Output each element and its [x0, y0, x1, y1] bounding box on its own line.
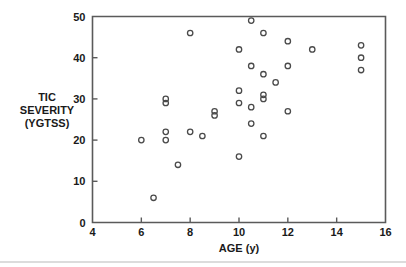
data-point: [200, 133, 205, 138]
data-point: [236, 100, 241, 105]
y-tick-label: 20: [73, 134, 85, 146]
x-axis-tick-labels: 46810121416: [89, 226, 391, 238]
x-tick-label: 6: [138, 226, 144, 238]
x-tick-label: 8: [187, 226, 193, 238]
data-point: [358, 43, 363, 48]
data-point: [358, 67, 363, 72]
y-tick-label: 50: [73, 11, 85, 23]
x-axis-title-text: AGE (y): [219, 242, 260, 254]
data-point: [236, 47, 241, 52]
data-point: [273, 80, 278, 85]
data-point: [236, 88, 241, 93]
data-point: [310, 47, 315, 52]
data-point: [261, 133, 266, 138]
y-axis-title-line: SEVERITY: [20, 104, 75, 116]
y-axis-title: TICSEVERITY(YGTSS): [20, 91, 75, 129]
y-axis-tick-labels: 01020304050: [73, 11, 85, 229]
x-axis-title: AGE (y): [219, 242, 260, 254]
data-point: [249, 63, 254, 68]
data-point: [163, 137, 168, 142]
y-axis-title-line: (YGTSS): [25, 117, 70, 129]
y-tick-label: 0: [79, 217, 85, 229]
x-tick-label: 10: [233, 226, 245, 238]
y-tick-label: 30: [73, 93, 85, 105]
data-point: [285, 63, 290, 68]
data-point: [285, 39, 290, 44]
y-axis-title-line: TIC: [38, 91, 56, 103]
data-point: [163, 129, 168, 134]
data-point: [261, 30, 266, 35]
data-point: [249, 121, 254, 126]
data-point: [175, 162, 180, 167]
chart-canvas: 46810121416 01020304050 AGE (y) TICSEVER…: [0, 0, 406, 267]
data-point: [358, 55, 363, 60]
y-tick-label: 10: [73, 175, 85, 187]
x-tick-label: 14: [331, 226, 344, 238]
scatter-plot-figure: 46810121416 01020304050 AGE (y) TICSEVER…: [0, 0, 406, 267]
data-point: [285, 109, 290, 114]
data-point: [187, 129, 192, 134]
data-point: [249, 104, 254, 109]
data-point: [139, 137, 144, 142]
x-tick-label: 16: [379, 226, 391, 238]
data-point-series: [139, 18, 364, 201]
y-tick-label: 40: [73, 52, 85, 64]
x-tick-label: 12: [282, 226, 294, 238]
data-point: [187, 30, 192, 35]
data-point: [236, 154, 241, 159]
data-point: [261, 71, 266, 76]
data-point: [249, 18, 254, 23]
x-tick-label: 4: [89, 226, 96, 238]
data-point: [151, 195, 156, 200]
